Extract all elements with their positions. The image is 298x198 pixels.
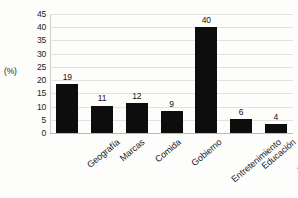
x-axis-category-label: Marcas — [118, 137, 147, 163]
bar — [91, 106, 113, 134]
gridline — [50, 27, 293, 28]
bar-value-label: 4 — [256, 113, 296, 122]
bar — [56, 84, 78, 133]
x-axis-category-label: Geografía — [86, 137, 122, 170]
x-axis-category-label-text: Gobierno — [189, 137, 223, 168]
bar-value-label: 40 — [186, 16, 226, 25]
y-axis-title: (%) — [4, 66, 17, 76]
bar — [265, 124, 287, 133]
y-axis-tick-label: 35 — [12, 36, 46, 45]
bar — [230, 119, 252, 133]
bar-value-label: 19 — [47, 73, 87, 82]
y-axis-tick-label: 45 — [12, 10, 46, 19]
y-axis-tick-labels: 454035302520151050 — [8, 0, 46, 198]
gridline — [50, 67, 293, 68]
x-axis-category-label: Comida — [153, 137, 183, 164]
gridline — [50, 40, 293, 41]
y-axis-tick-label: 0 — [12, 129, 46, 138]
y-axis-tick-label: 30 — [12, 50, 46, 59]
y-axis-tick-label: 10 — [12, 103, 46, 112]
bar — [161, 111, 183, 133]
gridline — [50, 133, 293, 134]
y-axis-tick-label: 20 — [12, 76, 46, 85]
gridline — [50, 54, 293, 55]
x-axis-category-label-text: Marcas — [118, 137, 147, 163]
x-axis-category-label-text: Geografía — [86, 137, 122, 170]
gridline — [50, 14, 293, 15]
y-axis-tick-label: 25 — [12, 63, 46, 72]
y-axis-tick-label: 15 — [12, 89, 46, 98]
x-axis-category-label-text: Comida — [153, 137, 183, 164]
bar — [126, 103, 148, 133]
bar-value-label: 9 — [152, 100, 192, 109]
x-axis-category-label: Gobierno — [189, 137, 223, 168]
y-axis-tick-label: 40 — [12, 23, 46, 32]
bar — [195, 27, 217, 133]
y-axis-tick-label: 5 — [12, 116, 46, 125]
bar-chart: 454035302520151050 (%) 19111294064 Geogr… — [0, 0, 298, 198]
